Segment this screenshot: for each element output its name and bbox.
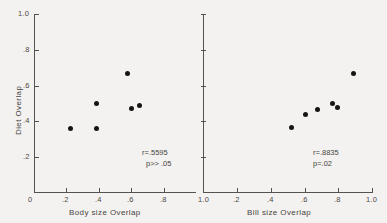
right-y-tick-1.0 xyxy=(201,14,206,15)
data-point xyxy=(351,71,356,76)
right-y-tick-0.6 xyxy=(201,86,206,87)
right-x-tick-label-1.0: 1.0 xyxy=(366,195,377,204)
right-y-tick-0.8 xyxy=(201,50,206,51)
right-x-tick-0 xyxy=(203,188,204,193)
right-x-tick-0.8 xyxy=(338,188,339,193)
data-point xyxy=(335,105,340,110)
left-x-tick-label-0.4: .4 xyxy=(95,195,102,204)
left-x-tick-0.4 xyxy=(99,188,100,193)
left-y-axis-title: Diet Overlap xyxy=(14,86,23,135)
left-y-tick-label-0.8: .8 xyxy=(23,45,30,54)
data-point xyxy=(94,126,99,131)
right-stat-p: p=.02 xyxy=(313,158,339,169)
right-x-tick-label-0.2: .2 xyxy=(233,195,240,204)
left-stats: r=.5595 p>> .05 xyxy=(142,147,171,169)
right-x-axis xyxy=(203,192,372,193)
data-point xyxy=(315,107,320,112)
left-y-tick-0.6 xyxy=(34,86,39,87)
right-x-tick-label-0: 1.0 xyxy=(198,195,209,204)
left-x-tick-0.2 xyxy=(66,188,67,193)
left-x-tick-0.8 xyxy=(164,188,165,193)
data-point xyxy=(68,126,73,131)
left-stat-p: p>> .05 xyxy=(146,158,171,169)
left-x-tick-label-0.6: .6 xyxy=(127,195,134,204)
data-point xyxy=(137,103,142,108)
data-point xyxy=(303,112,308,117)
scatter-figure: 1.0 .8 .6 .4 .2 0 .2 .4 .6 .8 Diet Overl… xyxy=(0,0,387,223)
right-x-tick-1.0 xyxy=(372,188,373,193)
left-y-tick-1.0 xyxy=(34,14,39,15)
right-x-tick-label-0.6: .6 xyxy=(301,195,308,204)
left-y-tick-label-0.6: .6 xyxy=(23,81,30,90)
left-y-tick-label-0.4: .4 xyxy=(23,116,30,125)
right-x-tick-label-0.8: .8 xyxy=(334,195,341,204)
left-x-axis xyxy=(34,192,196,193)
data-point xyxy=(125,71,130,76)
right-x-tick-0.6 xyxy=(305,188,306,193)
left-x-tick-label-0.8: .8 xyxy=(160,195,167,204)
left-y-tick-0.4 xyxy=(34,121,39,122)
left-y-tick-0.8 xyxy=(34,50,39,51)
data-point xyxy=(330,101,335,106)
data-point xyxy=(289,125,294,130)
left-x-tick-label-0.2: .2 xyxy=(62,195,69,204)
left-y-axis xyxy=(34,14,35,193)
left-x-tick-0.6 xyxy=(131,188,132,193)
right-y-axis xyxy=(203,14,204,193)
data-point xyxy=(94,101,99,106)
left-x-axis-title: Body size Overlap xyxy=(69,208,141,217)
left-y-tick-label-0: 0 xyxy=(28,195,32,204)
panel-bill-size: 1.0 .2 .4 .6 .8 1.0 Bill size Overlap r=… xyxy=(196,0,387,223)
right-x-tick-0.4 xyxy=(271,188,272,193)
left-y-tick-label-1.0: 1.0 xyxy=(18,9,29,18)
data-point xyxy=(129,106,134,111)
left-y-tick-0.2 xyxy=(34,157,39,158)
left-stat-r: r=.5595 xyxy=(142,147,171,158)
right-y-tick-0.2 xyxy=(201,157,206,158)
right-x-tick-label-0.4: .4 xyxy=(267,195,274,204)
right-stat-r: r=.8835 xyxy=(313,147,339,158)
left-y-tick-label-0.2: .2 xyxy=(23,152,30,161)
right-stats: r=.8835 p=.02 xyxy=(313,147,339,169)
panel-body-size: 1.0 .8 .6 .4 .2 0 .2 .4 .6 .8 Diet Overl… xyxy=(0,0,196,223)
right-x-tick-0.2 xyxy=(237,188,238,193)
right-x-axis-title: Bill size Overlap xyxy=(247,208,311,217)
right-y-tick-0.4 xyxy=(201,121,206,122)
